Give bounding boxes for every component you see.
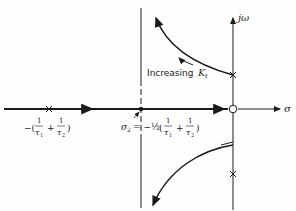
svg-text:2: 2 bbox=[191, 132, 194, 138]
locus-branch-upper bbox=[156, 18, 233, 75]
svg-text:1: 1 bbox=[37, 117, 41, 125]
svg-text:1: 1 bbox=[40, 132, 43, 138]
sigma-axis-label: σ bbox=[284, 103, 292, 114]
svg-text:+: + bbox=[176, 123, 184, 133]
breakaway-point bbox=[139, 107, 143, 111]
locus-branch-lower bbox=[153, 145, 233, 205]
svg-text:1: 1 bbox=[188, 117, 192, 125]
pole-label: −( 1 τ 1 + 1 τ 2 ) bbox=[24, 117, 71, 138]
diagram-svg: σ jω Increasing Kt −( 1 τ 1 + 1 τ 2 ) bbox=[0, 0, 296, 211]
svg-text:1: 1 bbox=[59, 117, 63, 125]
sigma2-label: σ 2 = −½ ( 1 τ 1 + 1 τ 2 ) bbox=[121, 117, 200, 138]
root-locus-diagram: σ jω Increasing Kt −( 1 τ 1 + 1 τ 2 ) bbox=[0, 0, 296, 211]
svg-text:1: 1 bbox=[169, 132, 172, 138]
increasing-arrow bbox=[179, 58, 193, 65]
svg-text:+: + bbox=[47, 123, 55, 133]
sigma2-pointer bbox=[134, 112, 139, 118]
svg-text:−(: −( bbox=[24, 123, 35, 133]
svg-text:): ) bbox=[196, 123, 200, 133]
svg-text:(: ( bbox=[159, 123, 163, 133]
svg-text:): ) bbox=[67, 123, 71, 133]
svg-text:2: 2 bbox=[62, 132, 65, 138]
svg-text:= −½: = −½ bbox=[133, 122, 160, 132]
zero-marker bbox=[229, 105, 237, 113]
svg-text:1: 1 bbox=[166, 117, 170, 125]
jomega-axis-label: jω bbox=[236, 12, 249, 23]
increasing-label: Increasing Kt bbox=[147, 68, 208, 79]
svg-text:2: 2 bbox=[127, 126, 131, 133]
